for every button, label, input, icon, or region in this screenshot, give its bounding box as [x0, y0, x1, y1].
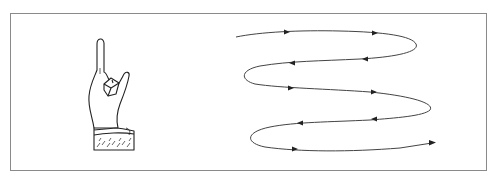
pointing-up-hand-icon [89, 39, 134, 150]
serpentine-path [236, 31, 432, 151]
arrow-left-icon [289, 61, 295, 66]
arrow-left-icon [297, 121, 303, 126]
arrow-right-icon [292, 147, 298, 152]
arrow-left-icon [362, 57, 368, 62]
arrow-right-icon [284, 30, 290, 35]
figure-canvas [0, 0, 503, 184]
arrow-right-icon [372, 31, 378, 36]
direction-arrows [284, 30, 436, 152]
arrow-left-icon [371, 117, 377, 122]
arrow-right-icon [288, 86, 294, 91]
arrow-right-icon [371, 90, 377, 95]
arrow-right-icon [429, 140, 436, 146]
